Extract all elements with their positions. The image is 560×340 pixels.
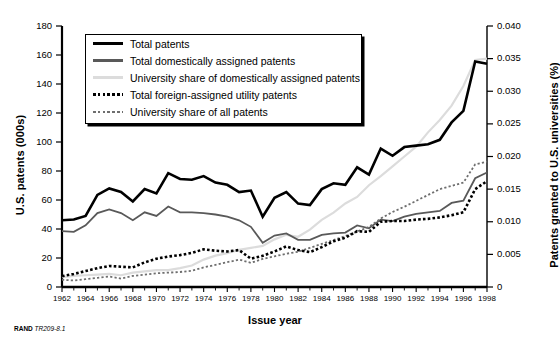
chart-legend: Total patentsTotal domestically assigned… bbox=[85, 34, 362, 124]
y-axis-right-tick-label: 0.020 bbox=[497, 150, 521, 161]
footer-id: TR209-8.1 bbox=[35, 325, 66, 332]
y-axis-right-tick-label: 0.010 bbox=[497, 215, 521, 226]
figure-source-note: RAND TR209-8.1 bbox=[14, 325, 65, 332]
y-axis-right-tick-label: 0.005 bbox=[497, 248, 521, 259]
legend-item: University share of all patents bbox=[86, 103, 361, 120]
y-axis-right-tick-label: 0.015 bbox=[497, 183, 521, 194]
y-axis-left-tick-label: 20 bbox=[0, 252, 52, 263]
y-axis-right-tick-label: 0.030 bbox=[497, 85, 521, 96]
y-axis-right-tick-label: 0.035 bbox=[497, 52, 521, 63]
y-axis-right-tick-label: 0.025 bbox=[497, 117, 521, 128]
y-axis-left-tick-label: 160 bbox=[0, 49, 52, 60]
y-axis-right-tick-label: 0.040 bbox=[497, 20, 521, 31]
y-axis-left-tick-label: 80 bbox=[0, 165, 52, 176]
y-axis-left-tick-label: 60 bbox=[0, 194, 52, 205]
y-axis-right-tick-label: 0 bbox=[497, 281, 502, 292]
y-axis-left-tick-label: 100 bbox=[0, 136, 52, 147]
y-axis-left-tick-label: 180 bbox=[0, 20, 52, 31]
legend-item: Total patents bbox=[86, 35, 361, 52]
legend-line-swatch bbox=[93, 106, 123, 118]
legend-item-label: University share of all patents bbox=[130, 106, 268, 118]
legend-item-label: University share of domestically assigne… bbox=[130, 72, 360, 84]
legend-item: University share of domestically assigne… bbox=[86, 69, 361, 86]
legend-line-swatch bbox=[93, 55, 123, 67]
legend-item: Total foreign-assigned utility patents bbox=[86, 86, 361, 103]
footer-brand: RAND bbox=[14, 325, 33, 332]
legend-item-label: Total foreign-assigned utility patents bbox=[130, 89, 297, 101]
legend-line-swatch bbox=[93, 89, 123, 101]
y-axis-left-tick-label: 140 bbox=[0, 78, 52, 89]
legend-item-label: Total patents bbox=[130, 38, 190, 50]
y-axis-left-tick-label: 40 bbox=[0, 223, 52, 234]
legend-line-swatch bbox=[93, 72, 123, 84]
y-axis-left-tick-label: 120 bbox=[0, 107, 52, 118]
y-axis-left-tick-label: 0 bbox=[0, 281, 52, 292]
legend-item-label: Total domestically assigned patents bbox=[130, 55, 295, 67]
legend-line-swatch bbox=[93, 38, 123, 50]
legend-item: Total domestically assigned patents bbox=[86, 52, 361, 69]
x-axis-tick-label: 1998 bbox=[473, 294, 501, 303]
